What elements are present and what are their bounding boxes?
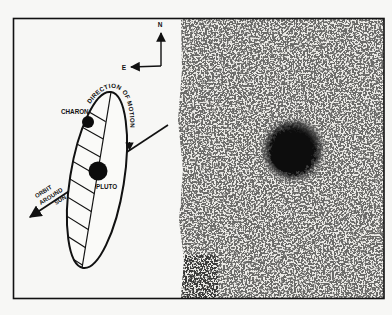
north-label: N (158, 21, 163, 28)
orbit-around-sun-label: ORBIT AROUND SUN (34, 180, 69, 213)
charon-dot (82, 116, 94, 128)
pluto-charon-figure: N E DIRECTION O (0, 0, 392, 315)
compass: N E (122, 21, 163, 71)
pluto-label: PLUTO (96, 183, 117, 190)
charon-label: CHARON (61, 108, 89, 115)
pluto-dot (89, 162, 108, 181)
east-label: E (122, 64, 127, 71)
telescope-photo (175, 15, 387, 301)
